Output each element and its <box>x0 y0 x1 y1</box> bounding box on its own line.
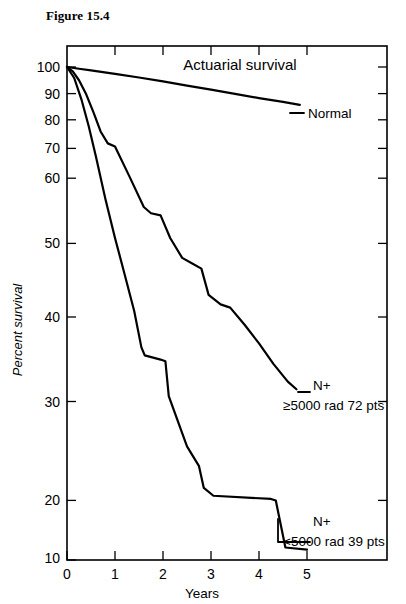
curve-n-plus-high-dose <box>67 67 296 389</box>
curve-n-plus-low-dose <box>67 67 307 550</box>
y-tick-label: 30 <box>44 394 60 410</box>
y-tick-label: 80 <box>44 112 60 128</box>
top-frame-ticks <box>115 46 307 55</box>
x-tick-label: 4 <box>255 566 263 582</box>
x-axis-title: Years <box>185 586 219 601</box>
plot-frame <box>67 46 387 560</box>
y-axis-title: Percent survival <box>10 283 25 377</box>
label-low-dose-line2: <5000 rad 39 pts <box>283 534 385 549</box>
actuarial-survival-chart: 100 90 80 70 60 50 40 30 20 10 Percent s… <box>0 0 406 604</box>
label-high-dose-line1: N+ <box>313 378 331 393</box>
figure-container: Figure 15.4 100 90 80 70 60 50 40 <box>0 0 406 604</box>
y-tick-label: 70 <box>44 140 60 156</box>
x-tick-label: 2 <box>159 566 167 582</box>
y-tick-label: 60 <box>44 170 60 186</box>
label-high-dose-line2: ≥5000 rad 72 pts <box>283 398 384 413</box>
y-axis-ticks <box>67 67 76 560</box>
y-tick-label: 100 <box>37 59 61 75</box>
x-tick-label: 0 <box>63 566 71 582</box>
label-normal: Normal <box>308 106 352 121</box>
y-tick-label: 20 <box>44 492 60 508</box>
label-low-dose-line1: N+ <box>313 514 331 529</box>
y-tick-label: 50 <box>44 235 60 251</box>
plot-title: Actuarial survival <box>183 56 296 73</box>
x-tick-label: 1 <box>111 566 119 582</box>
y-tick-label: 90 <box>44 86 60 102</box>
y-tick-label: 40 <box>44 309 60 325</box>
x-tick-label: 5 <box>303 566 311 582</box>
x-tick-label: 3 <box>207 566 215 582</box>
y-tick-label: 10 <box>44 550 60 566</box>
x-axis-ticks <box>67 551 307 560</box>
x-axis-tick-labels: 0 1 2 3 4 5 <box>63 566 311 582</box>
y-axis-tick-labels: 100 90 80 70 60 50 40 30 20 10 <box>37 59 61 566</box>
right-frame-ticks <box>378 67 387 500</box>
